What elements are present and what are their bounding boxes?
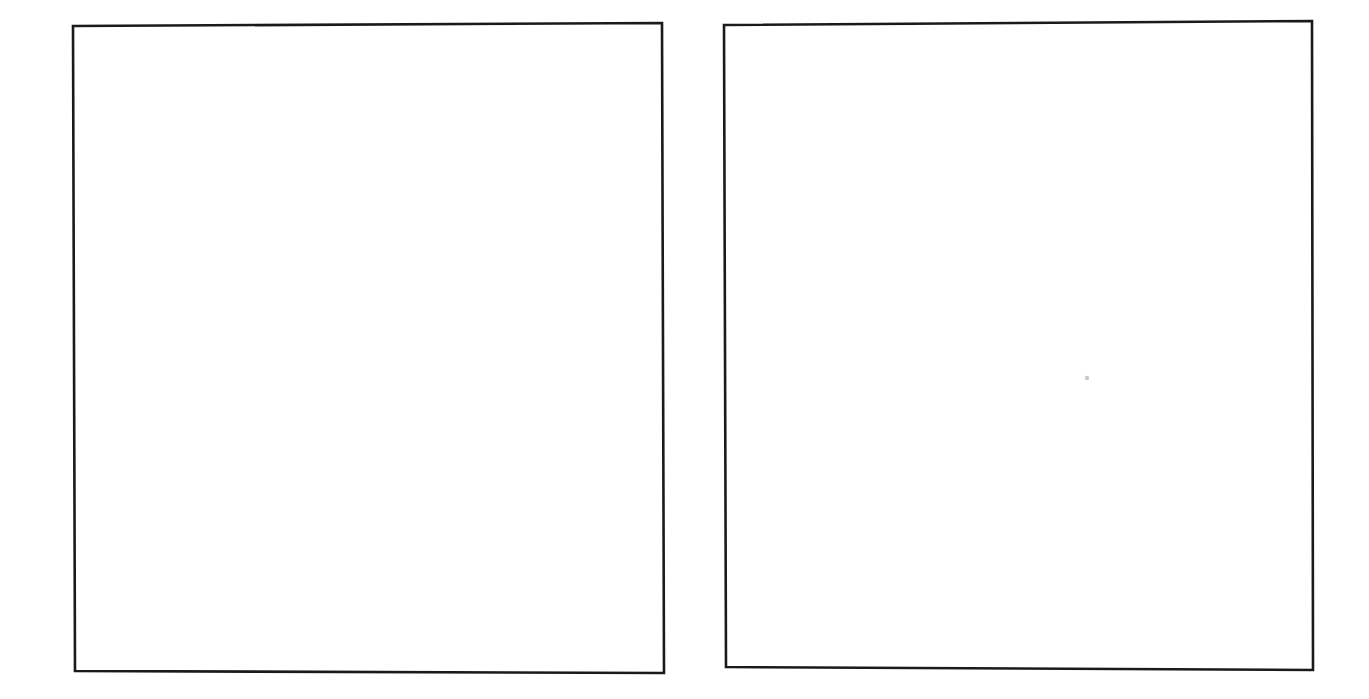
right-frame-border[interactable] — [724, 21, 1313, 670]
scanned-page — [0, 0, 1369, 699]
right-empty-frame[interactable] — [724, 21, 1313, 670]
left-empty-frame[interactable] — [73, 23, 664, 673]
left-frame-border[interactable] — [73, 23, 664, 673]
scan-speck-icon — [1085, 376, 1089, 380]
page-canvas — [0, 0, 1369, 699]
